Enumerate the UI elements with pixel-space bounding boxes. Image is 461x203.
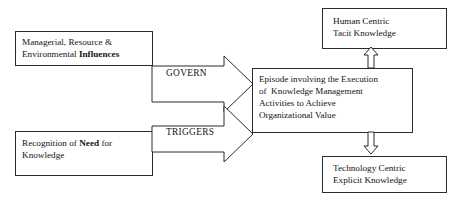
box-episode-line-1: Episode involving the Execution	[259, 73, 407, 85]
box-technology-centric-explicit-knowledge: Technology Centric Explicit Knowledge	[322, 156, 447, 193]
box-influences-emphasis: Influences	[79, 49, 119, 59]
box-need-line-1-plain-b: for	[99, 138, 112, 148]
box-human-line-2: Tacit Knowledge	[333, 28, 440, 40]
box-need-line-1-plain-a: Recognition of	[22, 138, 79, 148]
box-episode-line-2: of Knowledge Management	[259, 85, 407, 97]
box-technology-line-1: Technology Centric	[333, 163, 440, 175]
box-influences-line-1: Managerial, Resource &	[22, 37, 146, 49]
box-episode-line-4: Organizational Value	[259, 109, 407, 121]
arrow-down-shape	[364, 132, 378, 154]
box-recognition-of-need: Recognition of Need for Knowledge	[15, 131, 153, 176]
box-need-line-1: Recognition of Need for	[22, 138, 146, 150]
box-human-line-1: Human Centric	[333, 16, 440, 28]
box-need-emphasis: Need	[79, 138, 99, 148]
box-technology-line-2: Explicit Knowledge	[333, 175, 440, 187]
box-managerial-influences: Managerial, Resource & Environmental Inf…	[15, 31, 153, 66]
box-influences-line-2-plain: Environmental	[22, 49, 79, 59]
arrow-up-shape	[364, 47, 378, 68]
arrow-govern-shape	[152, 56, 253, 112]
box-need-line-2: Knowledge	[22, 150, 146, 162]
arrow-down-to-technology-centric	[363, 132, 379, 155]
box-knowledge-management-episode: Episode involving the Execution of Knowl…	[252, 68, 413, 133]
box-human-centric-tacit-knowledge: Human Centric Tacit Knowledge	[322, 8, 447, 49]
arrow-up-to-human-centric	[363, 47, 379, 69]
diagram-canvas: Managerial, Resource & Environmental Inf…	[0, 0, 461, 203]
arrow-label-triggers: TRIGGERS	[166, 127, 214, 137]
box-episode-line-3: Activities to Achieve	[259, 97, 407, 109]
arrow-label-govern: GOVERN	[166, 68, 207, 78]
box-influences-line-2: Environmental Influences	[22, 49, 146, 61]
